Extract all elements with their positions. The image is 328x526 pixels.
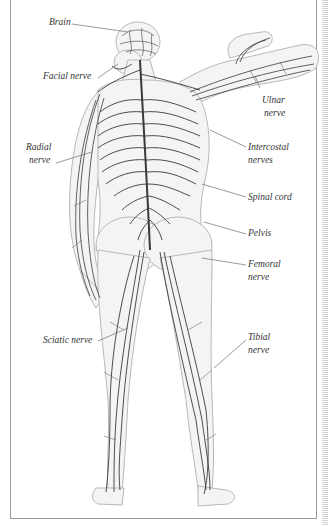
label-text: Ulnar <box>262 94 285 107</box>
label-text: nerve <box>26 154 51 167</box>
label-spinal-cord: Spinal cord <box>248 191 292 204</box>
label-facial-nerve: Facial nerve <box>43 70 91 83</box>
label-text: Spinal cord <box>248 192 292 202</box>
label-text: Intercostal <box>248 141 289 154</box>
label-text: nerves <box>248 154 289 167</box>
label-text: Pelvis <box>248 228 271 238</box>
label-pelvis: Pelvis <box>248 227 271 240</box>
label-radial-nerve: Radial nerve <box>26 141 51 167</box>
label-text: nerve <box>248 344 270 357</box>
label-text: Femoral <box>248 258 281 271</box>
label-tibial-nerve: Tibial nerve <box>248 331 270 357</box>
label-ulnar-nerve: Ulnar nerve <box>262 94 285 120</box>
leader-line-intercostal-nerves <box>210 130 246 147</box>
label-brain: Brain <box>49 16 71 29</box>
label-text: Tibial <box>248 331 270 344</box>
leader-line-spinal-cord <box>202 184 246 197</box>
label-sciatic-nerve: Sciatic nerve <box>43 334 92 347</box>
leader-line-tibial-nerve <box>214 340 246 368</box>
leader-line-pelvis <box>204 222 246 234</box>
label-intercostal-nerves: Intercostal nerves <box>248 141 289 167</box>
label-text: Radial <box>26 141 51 154</box>
label-femoral-nerve: Femoral nerve <box>248 258 281 284</box>
label-text: nerve <box>262 107 285 120</box>
label-text: Brain <box>49 17 71 27</box>
label-text: nerve <box>248 271 281 284</box>
leader-line-facial-nerve <box>98 64 118 78</box>
label-text: Facial nerve <box>43 71 91 81</box>
leader-line-brain <box>72 24 128 32</box>
label-text: Sciatic nerve <box>43 335 92 345</box>
